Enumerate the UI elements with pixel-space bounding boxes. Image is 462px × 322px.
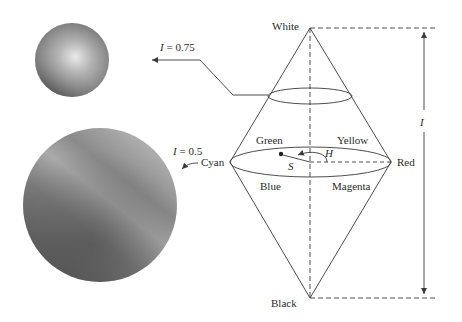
- color-label-red: Red: [397, 156, 415, 168]
- color-label-yellow: Yellow: [337, 134, 368, 146]
- hue-label: H: [324, 147, 334, 159]
- slice-label-05: I = 0.5: [172, 145, 203, 157]
- color-label-blue: Blue: [260, 180, 281, 192]
- slice-label-075: I = 0.75: [159, 41, 195, 53]
- color-label-magenta: Magenta: [332, 180, 371, 192]
- slice-disc-05: [23, 128, 177, 282]
- hsi-diagram: I = 0.75 I = 0.5 I H S White Black Cyan …: [0, 0, 462, 322]
- color-point: [279, 152, 283, 156]
- intensity-label: I: [419, 116, 425, 128]
- svg-text:I = 0.5: I = 0.5: [172, 145, 203, 157]
- pointer-line-075: [152, 60, 268, 95]
- saturation-label: S: [288, 160, 294, 172]
- slice-disc-075: [35, 23, 109, 97]
- color-label-green: Green: [256, 134, 283, 146]
- vertex-label-black: Black: [271, 297, 297, 309]
- pointer-line-05: [182, 163, 198, 169]
- svg-text:I = 0.75: I = 0.75: [159, 41, 195, 53]
- hue-arc: [298, 152, 327, 162]
- color-label-cyan: Cyan: [201, 156, 225, 168]
- vertex-label-white: White: [272, 20, 299, 32]
